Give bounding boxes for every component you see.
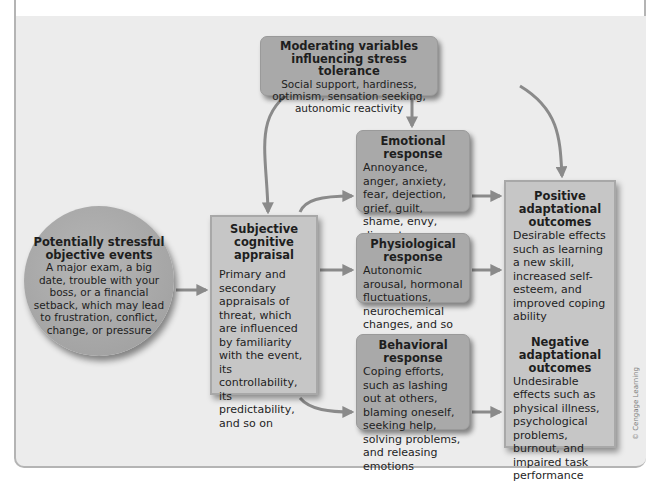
physiological-response-body: Autonomic arousal, hormonal fluctuations… — [363, 264, 463, 345]
stressful-events-body: A major exam, a big date, trouble with y… — [32, 261, 166, 336]
negative-outcomes-title: Negative adaptational outcomes — [513, 336, 607, 375]
frame-right-edge — [644, 0, 646, 16]
behavioral-response-box: Behavioral response Coping efforts, such… — [356, 334, 470, 430]
copyright-credit: © Cengage Learning — [632, 367, 640, 440]
moderating-variables-box: Moderating variables influencing stress … — [260, 36, 438, 96]
behavioral-response-body: Coping efforts, such as lashing out at o… — [363, 365, 463, 473]
physiological-response-box: Physiological response Autonomic arousal… — [356, 233, 470, 303]
behavioral-response-title: Behavioral response — [363, 339, 463, 365]
cognitive-appraisal-box: Subjective cognitive appraisal Primary a… — [210, 215, 318, 395]
moderating-variables-body: Social support, hardiness, optimism, sen… — [267, 78, 431, 114]
stressful-events-circle: Potentially stressful objective events A… — [24, 206, 174, 356]
emotional-response-box: Emotional response Annoyance, anger, anx… — [356, 130, 470, 212]
adaptational-outcomes-box: Positive adaptational outcomes Desirable… — [504, 180, 616, 448]
stressful-events-title: Potentially stressful objective events — [32, 236, 166, 261]
cognitive-appraisal-title: Subjective cognitive appraisal — [219, 223, 309, 262]
moderating-variables-title: Moderating variables influencing stress … — [267, 40, 431, 78]
negative-outcomes-body: Undesirable effects such as physical ill… — [513, 375, 607, 483]
positive-outcomes-body: Desirable effects such as learning a new… — [513, 229, 607, 324]
frame-left-edge — [14, 0, 16, 16]
positive-outcomes-section: Positive adaptational outcomes Desirable… — [513, 190, 607, 324]
negative-outcomes-section: Negative adaptational outcomes Undesirab… — [513, 336, 607, 483]
positive-outcomes-title: Positive adaptational outcomes — [513, 190, 607, 229]
emotional-response-title: Emotional response — [363, 135, 463, 161]
physiological-response-title: Physiological response — [363, 238, 463, 264]
cognitive-appraisal-body: Primary and secondary appraisals of thre… — [219, 268, 309, 430]
emotional-response-body: Annoyance, anger, anxiety, fear, dejecti… — [363, 161, 463, 242]
